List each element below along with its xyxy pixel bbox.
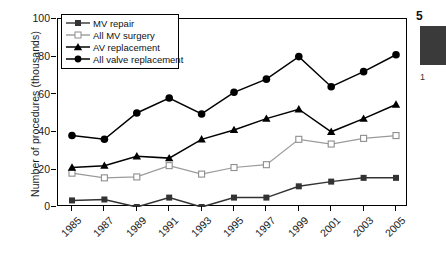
legend-item-av-replacement: AV replacement bbox=[65, 41, 175, 53]
x-tick-label: 1995 bbox=[214, 214, 245, 245]
filled-square-data-point bbox=[361, 175, 367, 181]
filled-square-marker-icon bbox=[65, 17, 91, 29]
series-line bbox=[72, 178, 396, 207]
x-tick-label: 1997 bbox=[247, 214, 278, 245]
filled-square-data-point bbox=[166, 195, 172, 201]
y-tick-mark bbox=[51, 56, 56, 57]
chart-figure: Number of procedures (thousands) 100 80 … bbox=[0, 0, 412, 265]
y-tick-mark bbox=[51, 169, 56, 170]
open-square-data-point bbox=[199, 171, 205, 177]
x-axis-tick-labels: 1985198719891991199319951997199920012003… bbox=[57, 210, 417, 265]
open-square-data-point bbox=[134, 174, 140, 180]
filled-circle-data-point bbox=[133, 109, 141, 117]
y-axis-tick-labels: 100 80 60 40 20 0 bbox=[22, 0, 50, 265]
series-mv-repair bbox=[69, 175, 399, 207]
x-tick-label: 1985 bbox=[52, 214, 83, 245]
legend-label: All MV surgery bbox=[91, 30, 155, 41]
filled-circle-data-point bbox=[68, 132, 76, 140]
x-tick-label: 1999 bbox=[279, 214, 310, 245]
y-tick-label: 20 bbox=[24, 164, 50, 174]
filled-square-data-point bbox=[231, 195, 237, 201]
filled-square-data-point bbox=[101, 196, 107, 202]
right-column-number: 5 bbox=[416, 9, 423, 23]
series-line bbox=[72, 136, 396, 178]
x-tick-label: 1991 bbox=[150, 214, 181, 245]
filled-circle-marker-icon bbox=[65, 53, 91, 65]
filled-circle-data-point bbox=[327, 83, 335, 91]
filled-square-data-point bbox=[328, 179, 334, 185]
legend-label: MV repair bbox=[91, 18, 134, 29]
y-tick-mark bbox=[51, 206, 56, 207]
x-tick-label: 2001 bbox=[312, 214, 343, 245]
y-tick-label: 80 bbox=[24, 51, 50, 61]
y-tick-mark bbox=[51, 93, 56, 94]
series-line bbox=[72, 105, 396, 168]
y-tick-label: 100 bbox=[24, 13, 50, 23]
open-square-marker-icon bbox=[65, 29, 91, 41]
x-tick-label: 1989 bbox=[117, 214, 148, 245]
filled-circle-data-point bbox=[263, 75, 271, 83]
series-all-mv-surgery bbox=[69, 133, 399, 181]
filled-triangle-data-point bbox=[392, 100, 400, 107]
filled-triangle-marker-icon bbox=[65, 41, 91, 53]
y-tick-mark bbox=[51, 131, 56, 132]
open-square-data-point bbox=[361, 135, 367, 141]
filled-square-data-point bbox=[296, 183, 302, 189]
filled-circle-data-point bbox=[295, 53, 303, 61]
x-tick-label: 2005 bbox=[376, 214, 407, 245]
legend-item-all-valve-replacement: All valve replacement bbox=[65, 53, 175, 65]
x-tick-label: 1993 bbox=[182, 214, 213, 245]
filled-circle-data-point bbox=[230, 89, 238, 97]
filled-square-data-point bbox=[393, 175, 399, 181]
open-square-data-point bbox=[231, 165, 237, 171]
open-square-data-point bbox=[393, 133, 399, 139]
legend-label: AV replacement bbox=[91, 42, 160, 53]
filled-circle-data-point bbox=[165, 94, 173, 102]
open-square-data-point bbox=[166, 163, 172, 169]
chart-legend: MV repair All MV surgery bbox=[61, 14, 179, 69]
filled-circle-data-point bbox=[360, 68, 368, 76]
series-av-replacement bbox=[68, 100, 400, 170]
open-square-data-point bbox=[263, 162, 269, 168]
open-square-data-point bbox=[101, 175, 107, 181]
open-square-data-point bbox=[328, 141, 334, 147]
y-tick-label: 60 bbox=[24, 89, 50, 99]
legend-item-all-mv-surgery: All MV surgery bbox=[65, 29, 175, 41]
y-tick-mark bbox=[51, 18, 56, 19]
page-root: Number of procedures (thousands) 100 80 … bbox=[0, 0, 446, 265]
open-square-data-point bbox=[69, 170, 75, 176]
y-tick-label: 40 bbox=[24, 126, 50, 136]
right-column-subnumber: 1 bbox=[420, 72, 425, 82]
filled-triangle-data-point bbox=[295, 105, 303, 112]
filled-circle-data-point bbox=[198, 110, 206, 118]
right-clipped-column: 5 1 • • • • • • • • • • • • • bbox=[412, 0, 446, 265]
legend-item-mv-repair: MV repair bbox=[65, 17, 175, 29]
filled-square-data-point bbox=[263, 195, 269, 201]
legend-label: All valve replacement bbox=[91, 54, 183, 65]
right-column-dark-bar bbox=[420, 26, 446, 65]
x-tick-label: 1987 bbox=[85, 214, 116, 245]
open-square-data-point bbox=[296, 136, 302, 142]
x-tick-label: 2003 bbox=[344, 214, 375, 245]
filled-circle-data-point bbox=[101, 136, 109, 144]
filled-circle-data-point bbox=[392, 51, 400, 59]
filled-square-data-point bbox=[69, 197, 75, 203]
y-tick-label: 0 bbox=[24, 201, 50, 211]
